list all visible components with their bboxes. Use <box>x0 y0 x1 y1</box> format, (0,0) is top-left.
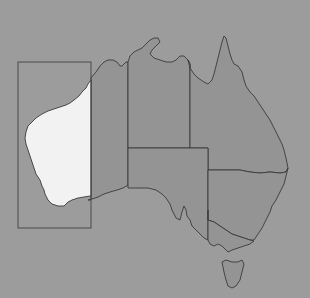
region-south-australia[interactable] <box>128 148 208 240</box>
australia-map: Australia <box>0 0 310 298</box>
region-tasmania[interactable] <box>222 260 244 288</box>
region-western-australia-outer[interactable] <box>88 60 128 200</box>
region-northern-territory[interactable] <box>128 38 190 148</box>
map-canvas <box>0 0 310 298</box>
region-western-australia-highlighted[interactable] <box>25 80 91 206</box>
